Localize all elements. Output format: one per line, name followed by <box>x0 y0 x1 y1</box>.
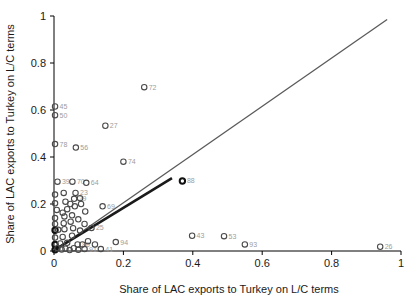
data-point <box>61 190 66 195</box>
data-point <box>60 234 65 239</box>
data-point <box>55 179 60 184</box>
data-point <box>52 201 57 206</box>
figure: 00.20.40.60.8100.20.40.60.81 45507856277… <box>0 0 414 303</box>
data-point-label: 56 <box>80 144 88 151</box>
data-point <box>54 207 59 212</box>
data-point-label: 26 <box>385 243 393 250</box>
data-point <box>113 239 118 244</box>
data-point <box>69 233 74 238</box>
scatter-plot: 00.20.40.60.8100.20.40.60.81 45507856277… <box>0 0 414 303</box>
fit-line <box>55 178 172 250</box>
data-point <box>69 213 74 218</box>
data-point-label: 50 <box>60 112 68 119</box>
data-point <box>52 215 57 220</box>
data-point-label: 64 <box>91 179 99 186</box>
data-point <box>52 104 57 109</box>
data-point-label: 88 <box>187 177 195 184</box>
x-tick-label: 0 <box>51 257 57 269</box>
y-tick-label: 0.2 <box>31 198 46 210</box>
data-point-label: 72 <box>149 84 157 91</box>
data-point <box>76 217 81 222</box>
data-point-label: 74 <box>128 158 136 165</box>
y-tick-label: 0.6 <box>31 104 46 116</box>
data-point-label: 94 <box>120 239 128 246</box>
x-axis-title: Share of LAC exports to Turkey on L/C te… <box>119 283 339 295</box>
data-point <box>52 112 57 117</box>
x-tick-label: 1 <box>398 257 404 269</box>
data-point <box>62 226 67 231</box>
data-point <box>221 233 226 238</box>
y-tick-label: 0.4 <box>31 151 46 163</box>
data-point <box>71 196 76 201</box>
x-tick-label: 0.8 <box>324 257 339 269</box>
data-point <box>103 123 108 128</box>
data-point-label: 53 <box>229 233 237 240</box>
plot-points: 4550785627727439706488232969254353932694… <box>52 84 392 253</box>
data-point-label: 45 <box>60 103 68 110</box>
data-point <box>73 190 78 195</box>
data-point <box>142 85 147 90</box>
data-point <box>68 219 73 224</box>
data-point <box>377 244 382 249</box>
data-point <box>189 233 194 238</box>
plot-lines <box>54 20 387 251</box>
data-point-label: 69 <box>107 203 115 210</box>
data-point-label: 93 <box>249 241 257 248</box>
data-point-label: 39 <box>62 178 70 185</box>
data-point-label: 43 <box>197 232 205 239</box>
data-point <box>242 242 247 247</box>
y-tick-label: 1 <box>40 10 46 22</box>
data-point <box>82 221 87 226</box>
data-point-label: 41 <box>105 246 113 253</box>
y-axis-title: Share of LAC exports to Turkey on L/C te… <box>4 24 16 244</box>
data-point <box>100 204 105 209</box>
y-tick-label: 0 <box>40 245 46 257</box>
data-point <box>73 145 78 150</box>
data-point-label: 78 <box>60 141 68 148</box>
data-point <box>52 235 57 240</box>
reference-line <box>54 20 387 251</box>
data-point <box>121 159 126 164</box>
data-point-label: 27 <box>110 122 118 129</box>
data-point-label: 25 <box>96 224 104 231</box>
y-tick-label: 0.8 <box>31 57 46 69</box>
x-tick-label: 0.6 <box>255 257 270 269</box>
x-tick-label: 0.4 <box>185 257 200 269</box>
x-tick-label: 0.2 <box>116 257 131 269</box>
data-point <box>61 221 66 226</box>
data-point <box>52 192 57 197</box>
data-point <box>180 178 185 183</box>
data-point <box>83 209 88 214</box>
data-point <box>70 226 75 231</box>
data-point <box>72 204 77 209</box>
data-point <box>52 221 57 226</box>
data-point <box>52 141 57 146</box>
data-point <box>70 179 75 184</box>
